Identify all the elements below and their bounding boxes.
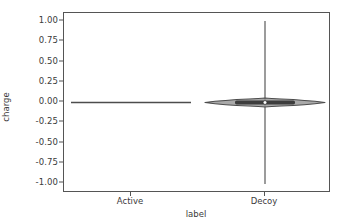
x-tick-label: Active (117, 196, 143, 206)
violin-plot-canvas (64, 13, 330, 192)
violin-decoy-median-marker (263, 101, 267, 105)
x-tick-label: Decoy (251, 196, 278, 206)
y-tick-label: 0.75 (0, 35, 58, 45)
y-tick-label: -0.25 (0, 116, 58, 126)
plot-area (63, 12, 330, 192)
y-tick-label: 0.00 (0, 96, 58, 106)
violin-decoy (205, 21, 325, 184)
y-tick-label: 1.00 (0, 15, 58, 25)
y-tick-label: 0.50 (0, 56, 58, 66)
y-tick-label: 0.25 (0, 76, 58, 86)
x-axis-label: label (186, 209, 207, 219)
y-tick-label: -0.50 (0, 137, 58, 147)
violin-plot-figure: charge 1.00 0.75 0.50 0.25 0.00 -0.25 -0… (0, 0, 346, 224)
y-tick-label: -0.75 (0, 157, 58, 167)
y-tick-label: -1.00 (0, 177, 58, 187)
